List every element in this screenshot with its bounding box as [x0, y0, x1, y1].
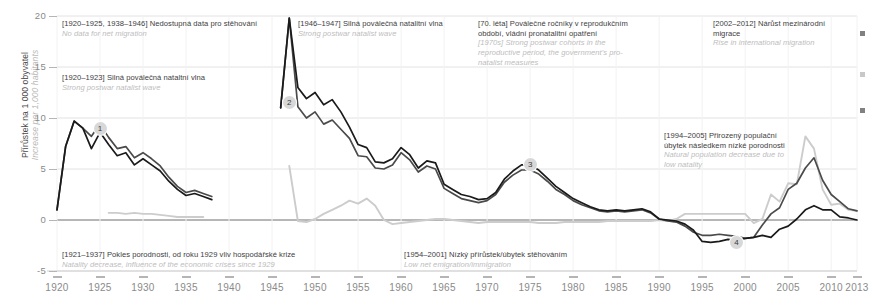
annotation-text-cz: [1920–1925, 1938–1946] Nedostupná data p… — [62, 19, 292, 29]
annotation-text-en: Strong postwar natalist wave — [62, 83, 277, 93]
x-axis-tick-mark — [655, 276, 664, 278]
x-axis-tick-mark — [354, 276, 363, 278]
y-axis-tick-mark — [49, 220, 57, 222]
annotation-seventies-cohorts: [70. léta] Poválečné ročníky v reprodukč… — [478, 19, 638, 68]
x-axis-tick-label: 2013 — [837, 282, 873, 293]
x-axis-tick-label: 1980 — [553, 282, 593, 293]
x-axis-tick-mark — [53, 276, 62, 278]
annotation-no-data-migration: [1920–1925, 1938–1946] Nedostupná data p… — [62, 19, 292, 38]
y-axis-tick-label: 20 — [22, 10, 46, 21]
chart-marker-2[interactable]: 2 — [283, 96, 296, 109]
annotation-text-en: Natality decrease, influence of the econ… — [62, 260, 327, 270]
x-axis-tick-label: 1985 — [596, 282, 636, 293]
x-axis-tick-label: 1940 — [209, 282, 249, 293]
x-axis-tick-mark — [569, 276, 578, 278]
annotation-text-en: Strong postwar natalist wave — [298, 29, 463, 39]
annotation-natality-decrease: [1921–1937] Pokles porodnosti, od roku 1… — [62, 250, 327, 269]
annotation-international-migration: [2002–2012] Nárůst mezinárodní migrace R… — [713, 19, 833, 48]
y-axis-tick-mark — [49, 169, 57, 171]
chart-marker-4[interactable]: 4 — [730, 236, 743, 249]
x-axis-tick-mark — [612, 276, 621, 278]
y-axis-tick-label: -5 — [22, 265, 46, 276]
chart-marker-1[interactable]: 1 — [94, 122, 107, 135]
x-axis-tick-mark — [483, 276, 492, 278]
x-axis-tick-mark — [139, 276, 148, 278]
annotation-text-cz: [1994–2005] Přirozený populační úbytek n… — [664, 131, 792, 150]
x-axis-tick-mark — [698, 276, 707, 278]
x-axis-tick-label: 1950 — [295, 282, 335, 293]
x-axis-tick-label: 2005 — [768, 282, 808, 293]
x-axis-tick-label: 1975 — [510, 282, 550, 293]
annotation-text-en: Low net emigration/immigration — [404, 260, 619, 270]
annotation-postwar-natalist-1920: [1920–1923] Silná poválečná nataltní vln… — [62, 73, 277, 92]
y-axis-tick-label: 10 — [22, 112, 46, 123]
y-axis-tick-label: 5 — [22, 163, 46, 174]
legend-stub-natural-increase — [860, 31, 865, 36]
x-axis-tick-mark — [526, 276, 535, 278]
x-axis-tick-mark — [440, 276, 449, 278]
y-axis-tick-label: 15 — [22, 61, 46, 72]
y-axis-tick-mark — [49, 16, 57, 18]
x-axis-tick-label: 1965 — [424, 282, 464, 293]
x-axis-tick-label: 1920 — [37, 282, 77, 293]
annotation-text-cz: [1920–1923] Silná poválečná nataltní vln… — [62, 73, 277, 83]
annotation-text-cz: [70. léta] Poválečné ročníky v reprodukč… — [478, 19, 638, 38]
annotation-text-cz: [1921–1937] Pokles porodnosti, od roku 1… — [62, 250, 327, 260]
x-axis-tick-label: 1960 — [381, 282, 421, 293]
annotation-text-en: [1970s] Strong postwar cohorts in the re… — [478, 38, 638, 67]
x-axis-tick-label: 1955 — [338, 282, 378, 293]
x-axis-tick-mark — [827, 276, 836, 278]
annotation-postwar-natalist-1946: [1946–1947] Silná poválečná natalitní vl… — [298, 19, 463, 38]
legend-stub-total-increase — [860, 72, 865, 77]
x-axis-tick-mark — [741, 276, 750, 278]
legend-stub-net-migration — [860, 108, 865, 113]
x-axis-tick-label: 1935 — [166, 282, 206, 293]
x-axis-tick-mark — [397, 276, 406, 278]
annotation-text-en: Rise in international migration — [713, 38, 833, 48]
y-axis-tick-mark — [49, 271, 57, 273]
annotation-low-net-migration: [1954–2001] Nízký přírůstek/úbytek stěho… — [404, 250, 619, 269]
annotation-text-en: No data for net migration — [62, 29, 292, 39]
annotation-text-cz: [1954–2001] Nízký přírůstek/úbytek stěho… — [404, 250, 619, 260]
x-axis-tick-mark — [96, 276, 105, 278]
x-axis-tick-mark — [784, 276, 793, 278]
y-axis-tick-mark — [49, 67, 57, 69]
y-axis-tick-label: 0 — [22, 214, 46, 225]
x-axis-tick-mark — [268, 276, 277, 278]
x-axis-tick-label: 2000 — [725, 282, 765, 293]
x-axis-tick-label: 1970 — [467, 282, 507, 293]
x-axis-tick-mark — [853, 276, 862, 278]
x-axis-tick-label: 1930 — [123, 282, 163, 293]
x-axis-tick-mark — [311, 276, 320, 278]
y-axis-tick-mark — [49, 118, 57, 120]
x-axis-tick-label: 1990 — [639, 282, 679, 293]
x-axis-tick-mark — [225, 276, 234, 278]
x-axis-tick-mark — [182, 276, 191, 278]
annotation-text-en: Natural population decrease due to low n… — [664, 150, 792, 169]
annotation-text-cz: [1946–1947] Silná poválečná natalitní vl… — [298, 19, 463, 29]
x-axis-tick-label: 1995 — [682, 282, 722, 293]
annotation-natural-decrease: [1994–2005] Přirozený populační úbytek n… — [664, 131, 792, 170]
x-axis-tick-label: 1925 — [80, 282, 120, 293]
chart-marker-3[interactable]: 3 — [524, 158, 537, 171]
x-axis-tick-label: 1945 — [252, 282, 292, 293]
annotation-text-cz: [2002–2012] Nárůst mezinárodní migrace — [713, 19, 833, 38]
